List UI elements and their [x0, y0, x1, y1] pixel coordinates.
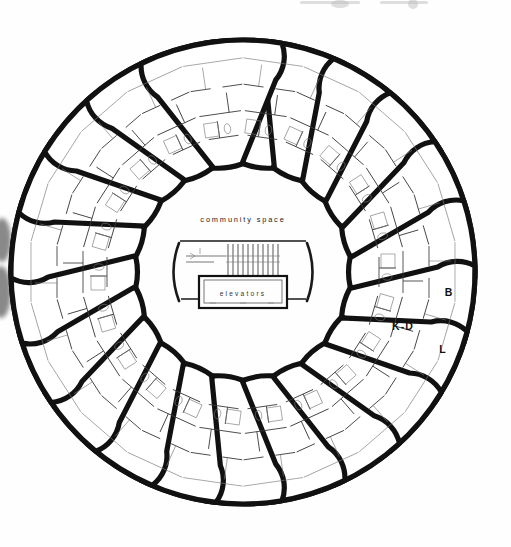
room-label-bedroom: B	[445, 286, 454, 298]
core-left-detail	[186, 248, 226, 262]
central-core: community space	[174, 215, 313, 308]
core-right-arc	[307, 243, 313, 301]
floor-plan-canvas: community space	[0, 0, 511, 547]
stair-run	[226, 244, 280, 276]
room-label-kitchen-dining: K-D	[392, 320, 414, 332]
room-label-living: L	[439, 343, 447, 355]
core-left-arc	[174, 243, 180, 301]
elevators-label: elevators	[220, 290, 267, 297]
floor-plan-svg: community space	[0, 0, 511, 547]
elevators-block: elevators	[199, 276, 287, 308]
community-space-label: community space	[200, 215, 285, 224]
